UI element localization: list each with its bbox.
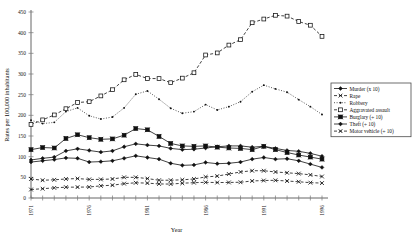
x-tick-label: 1976: [86, 205, 92, 216]
legend-item-label: Aggravated assault: [350, 107, 391, 113]
y-tick-label: 0: [23, 195, 26, 201]
y-tick-label: 250: [18, 92, 26, 98]
x-tick-label: 1981: [144, 205, 150, 216]
marker-dot: [30, 119, 32, 121]
marker-open-square: [339, 108, 343, 112]
marker-dot: [88, 115, 90, 117]
marker-dot: [193, 111, 195, 113]
y-tick-label: 50: [21, 174, 27, 180]
marker-open-square: [169, 81, 173, 85]
y-tick-label: 150: [18, 133, 26, 139]
y-tick-label: 400: [18, 30, 26, 36]
marker-open-square: [52, 113, 56, 117]
marker-dot: [135, 93, 137, 95]
marker-open-square: [122, 78, 126, 82]
marker-open-square: [320, 34, 324, 38]
legend-item-label: Burglary (÷ 10): [350, 114, 383, 121]
marker-dot: [298, 99, 300, 101]
x-tick-label: 1986: [203, 205, 209, 216]
marker-dot: [340, 102, 342, 104]
marker-dot: [42, 123, 44, 125]
legend-item-3[interactable]: Aggravated assault: [334, 107, 390, 113]
marker-open-square: [215, 51, 219, 55]
marker-dot: [112, 116, 114, 118]
marker-open-square: [111, 88, 115, 92]
marker-open-square: [157, 77, 161, 81]
marker-open-square: [274, 13, 278, 17]
marker-dot: [216, 109, 218, 111]
x-tick-label: 1996: [319, 205, 325, 216]
x-tick-label: 1991: [261, 205, 267, 216]
y-tick-label: 100: [18, 154, 26, 160]
marker-dot: [146, 90, 148, 92]
marker-open-square: [87, 100, 91, 104]
crime-rates-chart: 0501001502002503003504004501971197619811…: [0, 0, 412, 242]
y-tick-label: 300: [18, 71, 26, 77]
chart-canvas: 0501001502002503003504004501971197619811…: [0, 0, 412, 242]
marker-open-square: [297, 20, 301, 24]
marker-open-square: [99, 94, 103, 98]
marker-open-square: [192, 71, 196, 75]
marker-open-square: [262, 17, 266, 21]
marker-dot: [286, 91, 288, 93]
legend-item-label: Murder (x 10): [350, 86, 380, 93]
marker-dot: [158, 98, 160, 100]
marker-dot: [321, 114, 323, 116]
y-tick-label: 200: [18, 112, 26, 118]
marker-dot: [170, 107, 172, 109]
marker-open-square: [146, 77, 150, 81]
marker-open-square: [76, 101, 80, 105]
marker-dot: [205, 104, 207, 106]
legend-item-label: Motor vehicle (÷ 10): [350, 128, 394, 135]
marker-dot: [77, 107, 79, 109]
chart-legend: Murder (x 10)RapeRobberyAggravated assau…: [331, 83, 411, 137]
marker-open-square: [239, 38, 243, 42]
y-axis-title: Rates per 100,000 inhabitants: [3, 68, 10, 142]
legend-item-label: Robbery: [350, 100, 369, 106]
marker-dot: [100, 118, 102, 120]
legend-item-label: Theft (÷ 10): [350, 121, 376, 128]
x-axis-title: Year: [171, 226, 182, 233]
marker-open-square: [285, 14, 289, 18]
legend-item-label: Rape: [350, 93, 362, 99]
marker-dot: [123, 107, 125, 109]
y-tick-label: 450: [18, 9, 26, 15]
marker-dot: [53, 121, 55, 123]
marker-open-square: [204, 53, 208, 57]
marker-dot: [181, 112, 183, 114]
marker-dot: [263, 84, 265, 86]
marker-open-square: [64, 107, 68, 111]
marker-open-square: [29, 123, 33, 127]
y-tick-label: 350: [18, 50, 26, 56]
marker-dot: [274, 88, 276, 90]
marker-open-square: [180, 76, 184, 80]
marker-open-square: [308, 23, 312, 27]
marker-open-square: [41, 118, 45, 122]
marker-open-square: [250, 21, 254, 25]
marker-open-square: [227, 43, 231, 47]
marker-dot: [240, 101, 242, 103]
marker-dot: [309, 106, 311, 108]
x-tick-label: 1971: [28, 205, 34, 216]
marker-dot: [228, 106, 230, 108]
marker-open-square: [134, 73, 138, 77]
marker-dot: [251, 91, 253, 93]
